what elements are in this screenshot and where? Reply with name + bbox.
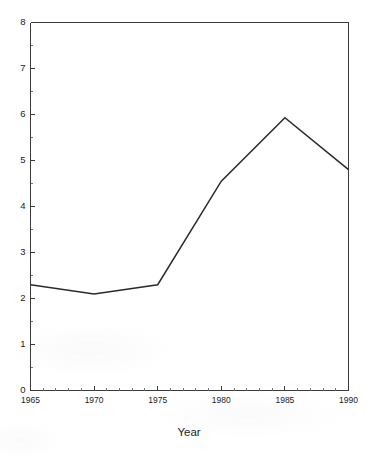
x-tick-label: 1980 <box>212 395 231 405</box>
y-tick-label: 3 <box>20 246 25 257</box>
chart-canvas: 876543210 196519701975198019851990 Year <box>0 0 366 462</box>
x-axis-tick-labels: 196519701975198019851990 <box>21 395 358 405</box>
y-tick-label: 0 <box>20 384 25 395</box>
plot-frame <box>31 23 349 391</box>
x-tick-label: 1985 <box>275 395 294 405</box>
y-tick-label: 5 <box>20 154 25 165</box>
line-chart: 876543210 196519701975198019851990 Year <box>0 0 366 462</box>
y-tick-label: 1 <box>20 338 25 349</box>
y-axis-ticks <box>31 23 35 391</box>
y-tick-label: 8 <box>20 16 25 27</box>
x-tick-label: 1975 <box>148 395 167 405</box>
x-tick-label: 1965 <box>21 395 40 405</box>
y-tick-label: 2 <box>20 292 25 303</box>
y-tick-label: 6 <box>20 108 25 119</box>
x-axis-title: Year <box>177 426 200 438</box>
y-tick-label: 7 <box>20 62 25 73</box>
data-series-line <box>31 118 349 294</box>
x-axis-ticks <box>31 386 349 391</box>
x-tick-label: 1970 <box>85 395 104 405</box>
y-axis-tick-labels: 876543210 <box>20 16 25 395</box>
x-tick-label: 1990 <box>339 395 358 405</box>
y-tick-label: 4 <box>20 200 25 211</box>
